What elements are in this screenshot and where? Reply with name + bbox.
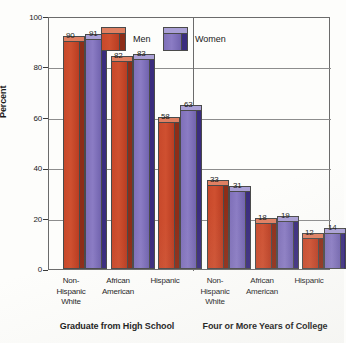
bar-value-right-african-women: 19 — [281, 211, 290, 220]
bar-value-left-nhwhite-women: 91 — [89, 29, 98, 38]
cat-line-1: Hispanic — [150, 276, 179, 285]
cat-line-2: American — [102, 287, 134, 296]
bar-left-nhwhite-men — [63, 41, 80, 269]
category-label-right-hispanic: Hispanic — [287, 276, 331, 287]
category-label-left-nhwhite: Non- Hispanic White — [50, 276, 92, 308]
cat-line-1: Non- — [63, 276, 80, 285]
category-label-left-hispanic: Hispanic — [143, 276, 187, 287]
y-axis-title: Percent — [0, 86, 8, 118]
category-label-left-african: African American — [97, 276, 139, 297]
bar-right-hispanic-women — [324, 233, 341, 269]
bar-side-face — [294, 221, 299, 269]
bar-face — [302, 238, 319, 269]
bar-face — [111, 61, 128, 269]
cat-line-1: African — [250, 276, 274, 285]
bar-left-hispanic-women — [180, 110, 197, 269]
cat-line-2: Hispanic — [56, 287, 85, 296]
bar-face — [63, 41, 80, 269]
cat-line-2: Hispanic — [200, 287, 229, 296]
y-tick-mark-0 — [43, 270, 48, 271]
y-tick-label-0: 0 — [16, 265, 42, 274]
bar-side-face — [246, 191, 251, 269]
cat-line-1: Non- — [207, 276, 224, 285]
cat-line-3: White — [61, 297, 80, 306]
bar-left-nhwhite-women — [85, 39, 102, 269]
legend-label-women: Women — [195, 34, 226, 44]
y-tick-label-60: 60 — [16, 114, 42, 123]
bar-value-left-hispanic-women: 63 — [184, 100, 193, 109]
legend-swatch-men-icon — [101, 27, 127, 51]
bar-value-left-hispanic-men: 58 — [161, 112, 170, 121]
bar-right-hispanic-men — [302, 238, 319, 269]
bar-face — [277, 221, 294, 269]
panel-title-left: Graduate from High School — [42, 321, 192, 331]
y-tick-label-80: 80 — [16, 63, 42, 72]
bar-value-right-african-men: 18 — [258, 213, 267, 222]
bar-face — [133, 59, 150, 269]
bar-side-face — [197, 110, 202, 269]
bar-left-african-men — [111, 61, 128, 269]
cat-line-1: Hispanic — [294, 276, 323, 285]
bar-value-right-nhwhite-men: 33 — [210, 175, 219, 184]
legend-cube-side — [120, 33, 126, 51]
bar-value-right-hispanic-men: 12 — [305, 228, 314, 237]
bar-value-right-hispanic-women: 14 — [328, 223, 337, 232]
cat-line-3: White — [205, 297, 224, 306]
legend-cube-face — [101, 33, 120, 51]
bar-value-left-nhwhite-men: 90 — [66, 31, 75, 40]
bar-face — [324, 233, 341, 269]
panel-title-right: Four or More Years of College — [186, 321, 344, 331]
legend-cube-face — [163, 33, 182, 51]
bar-left-hispanic-men — [158, 122, 175, 269]
y-tick-label-40: 40 — [16, 164, 42, 173]
cat-line-1: African — [106, 276, 130, 285]
bar-side-face — [102, 39, 107, 269]
legend-cube-side — [182, 33, 188, 51]
bar-face — [229, 191, 246, 269]
category-label-right-nhwhite: Non- Hispanic White — [194, 276, 236, 308]
bar-face — [180, 110, 197, 269]
plot-area: 90 91 82 83 58 63 — [48, 17, 330, 270]
legend-label-men: Men — [133, 34, 151, 44]
bar-face — [207, 185, 224, 269]
y-tick-label-100: 100 — [16, 13, 42, 22]
chart-legend: Men Women — [101, 23, 227, 57]
category-label-right-african: African American — [241, 276, 283, 297]
y-tick-label-20: 20 — [16, 215, 42, 224]
bar-right-nhwhite-men — [207, 185, 224, 269]
bar-face — [85, 39, 102, 269]
bar-side-face — [341, 233, 346, 269]
bar-value-right-nhwhite-women: 31 — [233, 181, 242, 190]
bar-right-african-women — [277, 221, 294, 269]
cat-line-2: American — [246, 287, 278, 296]
bar-right-african-men — [255, 223, 272, 269]
bar-face — [158, 122, 175, 269]
bar-face — [255, 223, 272, 269]
bar-left-african-women — [133, 59, 150, 269]
legend-swatch-women-icon — [163, 27, 189, 51]
bar-side-face — [150, 59, 155, 269]
bar-right-nhwhite-women — [229, 191, 246, 269]
